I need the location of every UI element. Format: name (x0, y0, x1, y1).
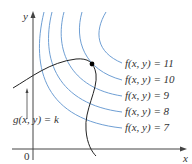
origin-label: 0 (24, 150, 30, 162)
level-curves (39, 12, 122, 128)
level-label-9: f(x, y) = 9 (125, 89, 170, 102)
level-curve-11 (99, 12, 122, 63)
x-axis-arrow-icon (180, 147, 187, 152)
y-axis-arrow-icon (31, 11, 36, 18)
pointer-arrow-icon (26, 88, 29, 93)
tangent-point (90, 62, 95, 67)
level-curve-9 (61, 12, 122, 96)
axes (12, 11, 187, 160)
level-curve-7 (39, 12, 122, 128)
x-axis-label: x (182, 152, 188, 164)
y-axis-label: y (22, 10, 28, 22)
level-label-10: f(x, y) = 10 (125, 73, 175, 86)
constraint-label: g(x, y) = k (13, 113, 60, 126)
lagrange-diagram: y x 0 g(x, y) = k f(x, y) = 11 f(x, y) =… (0, 0, 192, 164)
constraint-curve (13, 59, 96, 156)
level-curve-8 (49, 12, 122, 112)
level-label-11: f(x, y) = 11 (125, 57, 174, 70)
level-label-7: f(x, y) = 7 (125, 121, 170, 134)
level-label-8: f(x, y) = 8 (125, 105, 170, 118)
